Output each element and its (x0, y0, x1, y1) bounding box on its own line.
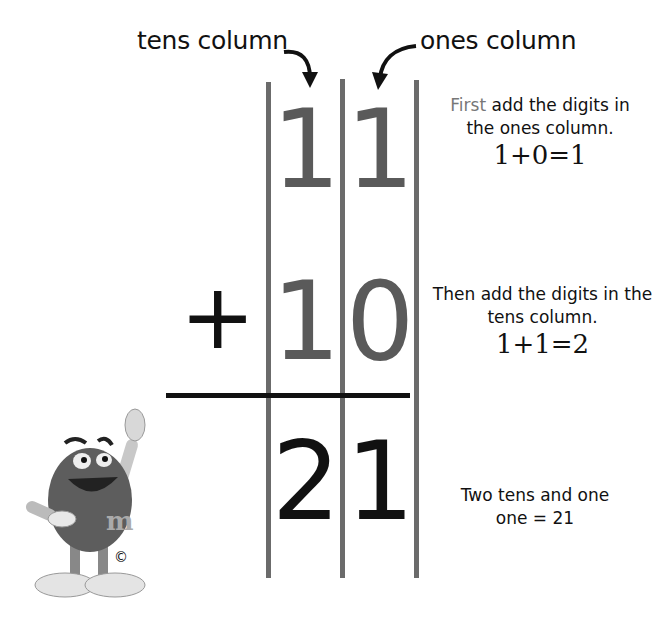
step-1-highlight: First (450, 95, 486, 115)
second-ones-digit: 0 (345, 268, 415, 376)
step-2-note: Then add the digits in the tens column. … (430, 283, 655, 356)
ones-column-label: ones column (420, 26, 576, 55)
sum-tens-digit: 2 (271, 428, 341, 536)
mm-mascot-illustration: m (20, 405, 160, 605)
step-1-note: First add the digits in the ones column.… (440, 94, 640, 167)
svg-text:m: m (106, 506, 134, 536)
second-tens-digit: 1 (271, 268, 341, 376)
arrow-down-left-icon (370, 40, 420, 92)
arrow-down-right-icon (280, 42, 320, 90)
step-2-equation: 1+1=2 (430, 333, 655, 356)
sum-ones-digit: 1 (345, 428, 415, 536)
tens-column-label: tens column (137, 26, 288, 55)
top-ones-digit: 1 (345, 96, 415, 204)
sum-line (166, 393, 410, 398)
step-3-text: Two tens and one one = 21 (461, 485, 609, 528)
plus-operator: + (180, 272, 250, 362)
step-2-text: Then add the digits in the tens column. (433, 284, 652, 327)
step-1-text: add the digits in the ones column. (466, 95, 629, 138)
step-1-equation: 1+0=1 (440, 144, 640, 167)
copyright-symbol: © (114, 549, 128, 565)
step-3-note: Two tens and one one = 21 (460, 484, 610, 530)
top-tens-digit: 1 (271, 96, 341, 204)
